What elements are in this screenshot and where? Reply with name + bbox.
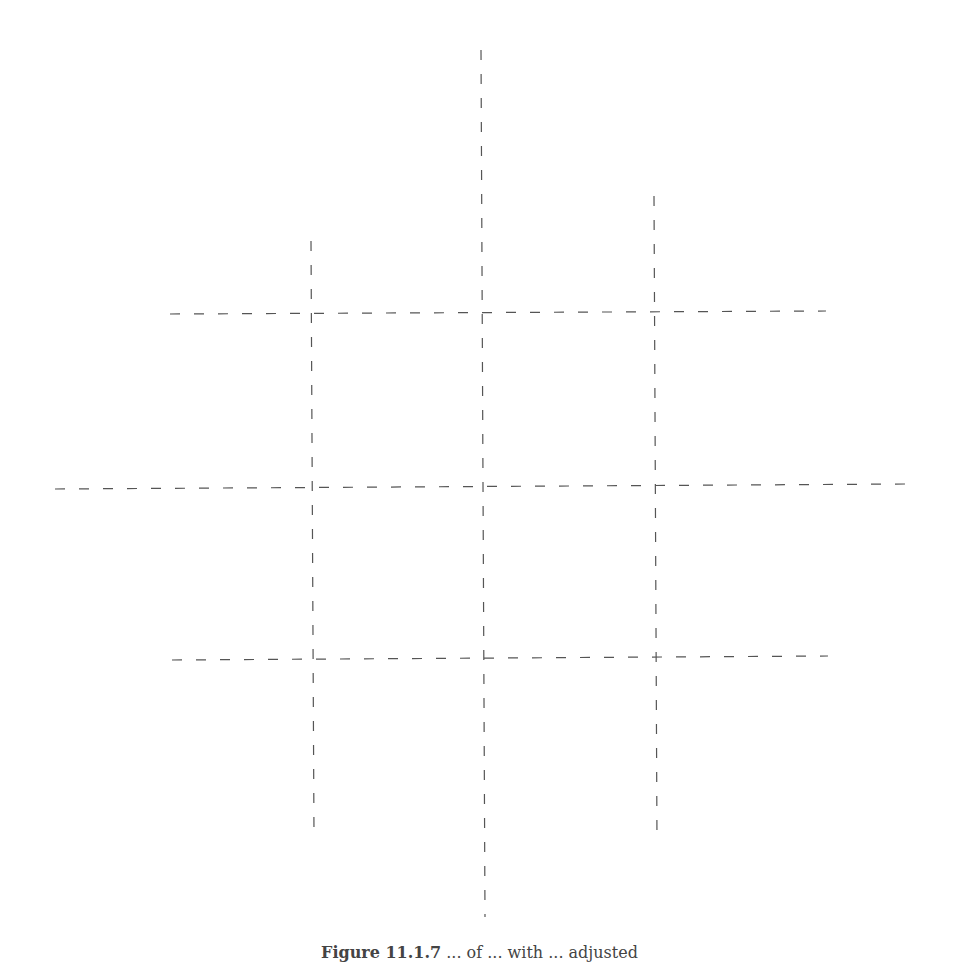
horizontal-dashed-lines	[55, 311, 908, 660]
figure-caption-label: Figure 11.1.7	[321, 943, 441, 962]
figure-caption: Figure 11.1.7 ... of ... with ... adjust…	[0, 943, 959, 962]
vertical-line-center	[481, 50, 485, 917]
vertical-dashed-lines	[311, 50, 657, 917]
horizontal-line-top	[170, 311, 826, 314]
vertical-line-left	[311, 241, 314, 836]
figure-caption-text: ... of ... with ... adjusted	[446, 943, 638, 962]
horizontal-line-bottom	[172, 656, 828, 660]
vertical-line-right	[654, 196, 657, 843]
horizontal-line-middle	[55, 484, 908, 489]
